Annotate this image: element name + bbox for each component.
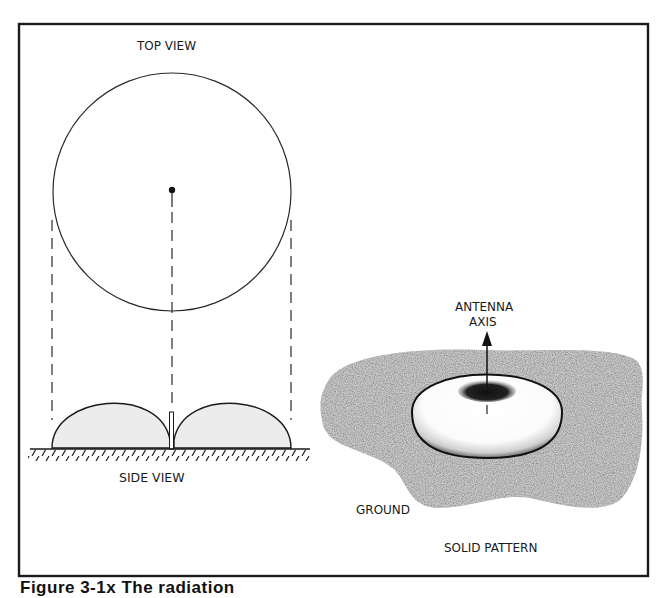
top-view-label: TOP VIEW (136, 39, 196, 53)
solid-pattern-label: SOLID PATTERN (444, 541, 537, 555)
figure-caption: Figure 3-1x The radiation (20, 578, 235, 598)
antenna-element (170, 412, 174, 449)
side-view-lobe-left (52, 403, 170, 448)
antenna-axis-label-line1: ANTENNA (455, 300, 514, 314)
solid-pattern-view: ANTENNA AXIS GROUND SOLID PATTERN (320, 300, 642, 555)
antenna-axis-label-line2: AXIS (469, 315, 497, 329)
projection-lines (52, 212, 291, 420)
arrow-head-icon (482, 331, 492, 346)
side-view: SIDE VIEW (28, 403, 310, 485)
side-view-lobe-right (174, 403, 291, 448)
ground-hatching (28, 450, 310, 461)
ground-label: GROUND (356, 503, 410, 517)
side-view-label: SIDE VIEW (119, 470, 185, 485)
